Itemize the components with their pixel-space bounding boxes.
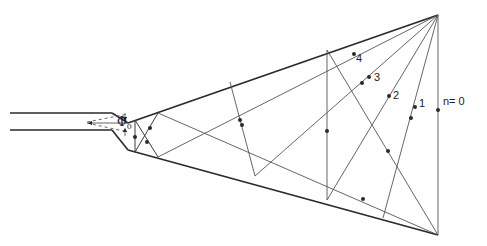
- arrow-cross: [386, 149, 390, 153]
- arrow-vertical: [325, 129, 329, 133]
- horn-upper-wall: [128, 15, 438, 123]
- horn-ray-diagram: n= 0 1 2 3 4 Φ0: [0, 0, 487, 246]
- arrow-throat-vertical: [133, 135, 137, 139]
- arrow-n3a: [367, 75, 371, 79]
- flare-bottom: [112, 130, 128, 150]
- ray-lower-long: [158, 113, 438, 235]
- horn-lower-wall: [128, 150, 438, 235]
- waveguide: [10, 113, 128, 150]
- label-n1: 1: [419, 98, 425, 109]
- arrow-lower: [361, 197, 365, 201]
- arrow-n1b: [409, 116, 413, 120]
- label-phi: Φ0: [117, 117, 132, 132]
- diagram-canvas: [0, 0, 487, 246]
- arrow-throat-b: [145, 140, 149, 144]
- arrow-n2: [387, 94, 391, 98]
- label-n0: n= 0: [443, 96, 465, 107]
- ray-families: [158, 15, 438, 235]
- horn-walls: [128, 15, 438, 235]
- arrow-reflect-b: [240, 123, 244, 127]
- label-n4: 4: [356, 53, 362, 64]
- arrow-n3b: [360, 81, 364, 85]
- throat-cross-a: [135, 120, 158, 157]
- arrow-n0: [436, 108, 440, 112]
- arrow-reflect-a: [238, 118, 242, 122]
- arrow-throat-a: [148, 126, 152, 130]
- ray-n4: [158, 15, 438, 157]
- ray-n3-reflect: [230, 82, 255, 176]
- phi-subscript: 0: [127, 122, 132, 131]
- arrow-n1a: [413, 105, 417, 109]
- ray-n3: [255, 15, 438, 176]
- label-n3: 3: [374, 72, 380, 83]
- label-n2: 2: [393, 90, 399, 101]
- phi-symbol: Φ: [117, 115, 127, 129]
